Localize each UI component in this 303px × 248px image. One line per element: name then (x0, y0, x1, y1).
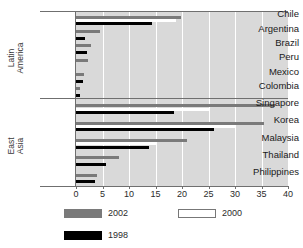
clipped-title-remnant (4, 0, 124, 6)
bar-brazil-1998 (76, 51, 87, 54)
x-tick-label-10: 10 (124, 189, 134, 199)
category-label-korea: Korea (230, 115, 302, 125)
gridline-15 (156, 12, 157, 186)
category-label-text: Peru (279, 51, 302, 62)
bar-philippines-1998 (76, 180, 95, 183)
category-label-argentina: Argentina (230, 24, 302, 34)
bar-mexico-1998 (76, 80, 83, 83)
bar-colombia-1998 (76, 94, 80, 97)
category-label-text: Colombia (259, 80, 302, 91)
category-label-text: Philippines (253, 166, 302, 177)
category-label-peru: Peru (230, 52, 302, 62)
group-label-text: Latin America (7, 28, 25, 88)
x-tick-label-25: 25 (203, 189, 213, 199)
x-tick-label-30: 30 (230, 189, 240, 199)
category-label-thailand: Thailand (230, 150, 302, 160)
bar-thailand-2002 (76, 156, 119, 159)
legend-swatch-1998 (64, 231, 102, 240)
bar-korea-1998 (76, 128, 214, 131)
x-tick-label-0: 0 (73, 189, 78, 199)
category-label-brazil: Brazil (230, 38, 302, 48)
bar-philippines-2002 (76, 174, 97, 177)
bar-mexico-2002 (76, 73, 84, 76)
x-tick-label-40: 40 (283, 189, 293, 199)
chart-figure: ChileArgentinaBrazilPeruMexicoColombiaSi… (0, 0, 302, 248)
category-label-text: Singapore (256, 97, 302, 108)
legend-label-1998: 1998 (108, 230, 128, 241)
gridline-10 (129, 12, 130, 186)
group-label-east-asia: East Asia (7, 116, 25, 176)
legend-swatch-2000 (178, 209, 216, 218)
bar-argentina-2002 (76, 30, 100, 33)
group-label-latin-america: Latin America (7, 28, 25, 88)
bar-malaysia-1998 (76, 146, 149, 149)
category-label-text: Brazil (275, 37, 302, 48)
category-label-text: Argentina (258, 23, 302, 34)
chart-legend: 200220001998 (0, 204, 302, 248)
category-label-mexico: Mexico (230, 67, 302, 77)
group-label-text: East Asia (7, 116, 25, 176)
axis-rule-bottom (40, 186, 288, 187)
category-label-philippines: Philippines (230, 167, 302, 177)
bar-peru-2002 (76, 59, 88, 62)
gridline-20 (182, 12, 183, 186)
bar-colombia-2002 (76, 87, 80, 90)
category-label-text: Korea (274, 114, 302, 125)
gridline-5 (103, 12, 104, 186)
legend-swatch-2002 (64, 209, 102, 218)
x-tick-label-5: 5 (100, 189, 105, 199)
category-label-text: Mexico (269, 66, 302, 77)
category-label-singapore: Singapore (230, 98, 302, 108)
category-label-text: Thailand (263, 149, 302, 160)
bar-singapore-1998 (76, 111, 174, 114)
legend-label-2000: 2000 (222, 208, 242, 219)
bar-argentina-1998 (76, 37, 85, 40)
bar-chile-1998 (76, 22, 152, 25)
bar-brazil-2002 (76, 44, 91, 47)
bar-thailand-1998 (76, 163, 106, 166)
x-tick-label-35: 35 (256, 189, 266, 199)
category-label-colombia: Colombia (230, 81, 302, 91)
x-tick-label-15: 15 (150, 189, 160, 199)
category-label-chile: Chile (230, 9, 302, 19)
legend-label-2002: 2002 (108, 208, 128, 219)
x-tick-label-20: 20 (177, 189, 187, 199)
category-label-text: Malaysia (262, 132, 303, 143)
gridline-25 (209, 12, 210, 186)
category-label-text: Chile (277, 8, 302, 19)
category-label-malaysia: Malaysia (230, 133, 302, 143)
